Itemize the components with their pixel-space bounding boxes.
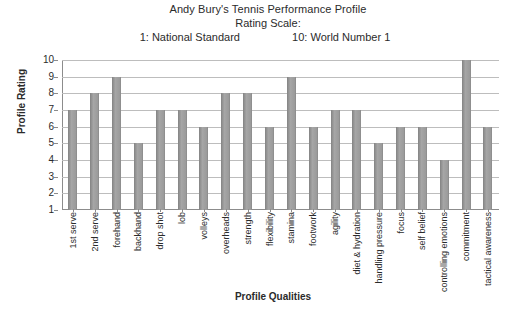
x-axis-tick-label: 2nd serve: [90, 212, 99, 252]
chart-subtitle: Rating Scale:: [0, 16, 510, 30]
x-axis-tick-label: backhand: [134, 212, 143, 251]
x-axis-tick-label: agility: [331, 212, 340, 235]
bar[interactable]: [440, 160, 449, 210]
bar[interactable]: [156, 110, 165, 210]
bar[interactable]: [265, 127, 274, 210]
bar-slot: [302, 60, 324, 210]
y-axis-tick-label: 6: [48, 122, 54, 132]
y-axis-tick-label: 1: [48, 205, 54, 215]
x-axis-tick-label: flexibility: [265, 212, 274, 246]
bar[interactable]: [418, 127, 427, 210]
y-axis-tick-labels: 10987654321: [30, 60, 58, 210]
bar[interactable]: [331, 110, 340, 210]
chart-title: Andy Bury's Tennis Performance Profile: [0, 2, 510, 16]
bar[interactable]: [462, 60, 471, 210]
bar-slot: [280, 60, 302, 210]
bar-slot: [193, 60, 215, 210]
y-axis-tick-label: 9: [48, 72, 54, 82]
x-label-slot: overheads: [215, 212, 237, 290]
bars-layer: [62, 60, 499, 210]
y-axis-tick-mark: [54, 127, 58, 128]
bar-slot: [259, 60, 281, 210]
bar-slot: [215, 60, 237, 210]
x-label-slot: lob: [171, 212, 193, 290]
bar[interactable]: [112, 77, 121, 210]
x-label-slot: commitment: [455, 212, 477, 290]
y-axis-tick-mark: [54, 143, 58, 144]
bar[interactable]: [221, 93, 230, 210]
bar[interactable]: [68, 110, 77, 210]
bar-slot: [237, 60, 259, 210]
bar-slot: [433, 60, 455, 210]
x-axis-tick-labels: 1st serve2nd serveforehandbackhanddrop s…: [62, 212, 499, 290]
bar-slot: [171, 60, 193, 210]
bar-slot: [412, 60, 434, 210]
x-label-slot: forehand: [106, 212, 128, 290]
y-axis-tick-label: 7: [48, 105, 54, 115]
bar-slot: [477, 60, 499, 210]
rating-scale-legend: 1: National Standard 10: World Number 1: [0, 30, 510, 44]
x-axis-tick-label: strength: [243, 212, 252, 245]
x-axis-tick-label: stamina: [287, 212, 296, 244]
x-label-slot: agility: [324, 212, 346, 290]
bar[interactable]: [243, 93, 252, 210]
x-axis-tick-label: tactical awareness: [483, 212, 492, 286]
bar-slot: [128, 60, 150, 210]
bar[interactable]: [396, 127, 405, 210]
x-axis-tick-label: drop shot: [156, 212, 165, 250]
x-label-slot: tactical awareness: [477, 212, 499, 290]
x-axis-tick-label: handling pressure: [374, 212, 383, 284]
x-axis-tick-label: controlling emotions: [440, 212, 449, 292]
x-label-slot: strength: [237, 212, 259, 290]
x-label-slot: flexibility: [259, 212, 281, 290]
y-axis-tick-mark: [54, 110, 58, 111]
x-label-slot: volleys: [193, 212, 215, 290]
x-axis-tick-label: commitment: [462, 212, 471, 261]
x-label-slot: footwork: [302, 212, 324, 290]
x-label-slot: diet & hydration: [346, 212, 368, 290]
y-axis-tick-mark: [54, 93, 58, 94]
y-axis-title: Profile Rating: [16, 57, 27, 147]
bar-slot: [62, 60, 84, 210]
x-label-slot: 2nd serve: [84, 212, 106, 290]
bar[interactable]: [483, 127, 492, 210]
bar[interactable]: [90, 93, 99, 210]
x-axis-tick-label: forehand: [112, 212, 121, 248]
x-label-slot: controlling emotions: [433, 212, 455, 290]
bar-slot: [84, 60, 106, 210]
x-label-slot: focus: [390, 212, 412, 290]
bar[interactable]: [178, 110, 187, 210]
bar-slot: [390, 60, 412, 210]
y-axis-tick-label: 8: [48, 88, 54, 98]
bar-slot: [368, 60, 390, 210]
bar[interactable]: [352, 110, 361, 210]
bar-slot: [324, 60, 346, 210]
y-axis-tick-label: 5: [48, 138, 54, 148]
y-axis-tick-label: 4: [48, 155, 54, 165]
x-axis-tick-label: volleys: [199, 212, 208, 240]
bar[interactable]: [287, 77, 296, 210]
y-axis-tick-label: 3: [48, 172, 54, 182]
rating-scale-high: 10: World Number 1: [292, 30, 390, 44]
x-axis-tick-label: focus: [396, 212, 405, 234]
bar[interactable]: [374, 143, 383, 210]
bar[interactable]: [199, 127, 208, 210]
x-axis-tick-label: diet & hydration: [352, 212, 361, 275]
x-label-slot: drop shot: [149, 212, 171, 290]
bar-slot: [346, 60, 368, 210]
x-axis-tick-label: overheads: [221, 212, 230, 254]
bar[interactable]: [309, 127, 318, 210]
x-axis-title: Profile Qualities: [0, 291, 510, 302]
plot-area: [62, 60, 499, 210]
x-axis-tick-label: self belief: [418, 212, 427, 250]
x-label-slot: 1st serve: [62, 212, 84, 290]
y-axis-tick-label: 10: [43, 55, 54, 65]
y-axis-tick-mark: [54, 177, 58, 178]
bar-chart-figure: Andy Bury's Tennis Performance Profile R…: [0, 0, 510, 317]
x-label-slot: handling pressure: [368, 212, 390, 290]
bar[interactable]: [134, 143, 143, 210]
bar-slot: [455, 60, 477, 210]
x-label-slot: stamina: [280, 212, 302, 290]
bar-slot: [149, 60, 171, 210]
y-axis-tick-mark: [54, 60, 58, 61]
